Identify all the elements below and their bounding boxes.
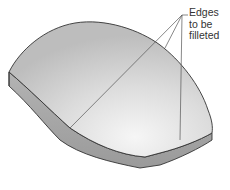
leader-line-2: [165, 15, 182, 48]
callout-line-1: Edges: [189, 7, 219, 19]
callout-label: Edges to be filleted: [189, 7, 219, 42]
callout-line-3: filleted: [189, 30, 219, 42]
